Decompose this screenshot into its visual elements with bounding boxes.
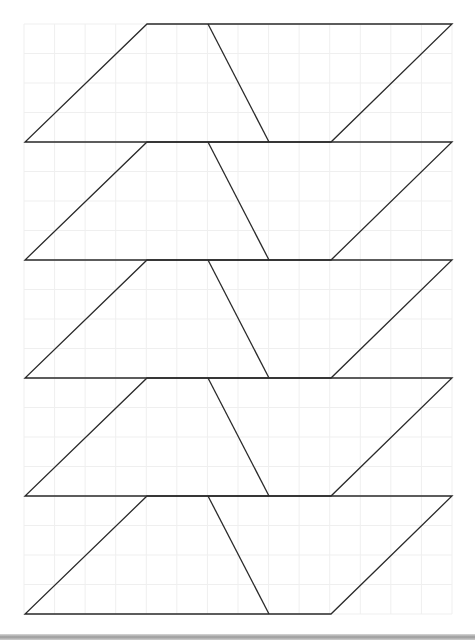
page-bottom-edge: [0, 634, 475, 640]
diagram-svg: Shape 1Shape 2Shape 3Shape 4Shape 5: [0, 0, 475, 644]
